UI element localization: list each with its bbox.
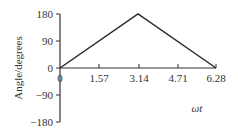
x-axis-label: ωt [192,102,204,114]
y-tick-label: −180 [30,116,53,128]
y-tick-label: 0 [48,62,54,74]
y-tick-label: −90 [36,89,54,101]
y-tick-labels: 180 90 0 −90 −180 [30,8,53,128]
y-tick-label: 180 [37,8,54,20]
x-tick-labels: 0 1.57 3.14 4.71 6.28 [57,72,226,84]
y-tick-label: 90 [42,35,54,47]
series-line [60,14,216,68]
x-tick-label: 4.71 [168,72,187,84]
x-tick-label: 3.14 [129,72,149,84]
x-tick-label: 1.57 [89,72,109,84]
x-tick-label: 6.28 [206,72,226,84]
chart: 180 90 0 −90 −180 0 1.57 3.14 4.71 6.28 … [0,0,238,137]
y-axis-label: Angle/degrees [12,36,24,100]
x-tick-label: 0 [57,72,63,84]
